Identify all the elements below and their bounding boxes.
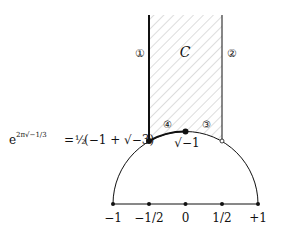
- edge-label-one: ①: [135, 47, 145, 60]
- edge-label-four: ④: [163, 119, 172, 130]
- tick-point-zero: [184, 202, 188, 206]
- point-i: [183, 129, 189, 135]
- edge-label-two: ②: [227, 47, 237, 60]
- edge-label-three: ③: [202, 119, 211, 130]
- tick-point-plus-one: [256, 202, 260, 206]
- tick-point-half: [220, 202, 224, 206]
- region-label-c: C: [180, 44, 191, 60]
- tick-point-minus-one: [111, 202, 115, 206]
- fundamental-domain-diagram: C ① ② ④ ③ e 2π√−1/3 = ½ (−1 + √−3) √−1 −…: [0, 0, 282, 235]
- tick-label-plus-one: +1: [249, 211, 267, 225]
- tick-label-zero: 0: [182, 211, 190, 225]
- tick-label-minus-one: −1: [104, 211, 122, 225]
- tick-label-half: 1/2: [212, 211, 231, 225]
- point-label-rho-eq: =: [64, 133, 74, 147]
- point-label-rho-rest: (−1 + √−3): [84, 133, 154, 147]
- point-label-i: √−1: [174, 136, 199, 150]
- region-c-hatch: [149, 15, 222, 141]
- point-label-rho-exponent: 2π√−1/3: [16, 131, 47, 139]
- tick-label-minus-half: −1/2: [134, 211, 163, 225]
- point-rho-plus-one-open: [220, 139, 224, 143]
- tick-point-minus-half: [147, 202, 151, 206]
